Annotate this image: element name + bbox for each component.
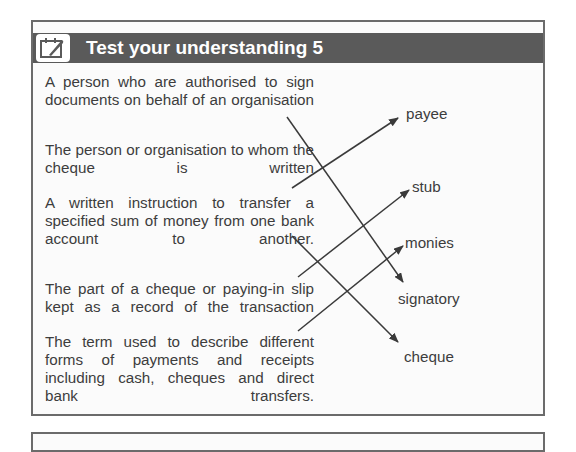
arrow-to-signatory bbox=[287, 117, 403, 282]
arrow-to-stub bbox=[298, 190, 409, 277]
next-panel-top-edge bbox=[31, 432, 545, 452]
arrow-to-payee bbox=[292, 118, 398, 188]
